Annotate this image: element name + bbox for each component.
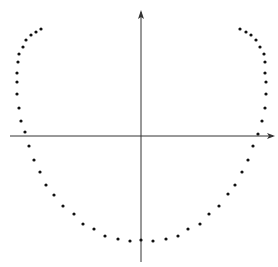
data-point: [81, 222, 84, 225]
data-point: [264, 80, 267, 83]
data-point: [15, 71, 18, 74]
data-point: [176, 234, 179, 237]
data-point: [256, 132, 259, 135]
data-point: [72, 212, 75, 215]
data-point: [15, 80, 18, 83]
data-point: [21, 45, 24, 48]
data-point: [17, 52, 20, 55]
data-point: [128, 239, 131, 242]
data-point: [164, 237, 167, 240]
data-point: [262, 52, 265, 55]
data-point: [263, 71, 266, 74]
data-point: [263, 106, 266, 109]
axes: [10, 10, 275, 262]
data-point: [207, 212, 210, 215]
data-point: [254, 38, 257, 41]
data-point: [244, 30, 247, 33]
data-point: [263, 60, 266, 63]
data-point: [92, 227, 95, 230]
data-point: [240, 170, 243, 173]
data-point: [17, 106, 20, 109]
data-point: [139, 238, 142, 241]
data-point: [260, 119, 263, 122]
data-point: [24, 38, 27, 41]
data-point: [39, 27, 42, 30]
data-point: [233, 183, 236, 186]
data-point: [251, 144, 254, 147]
data-point: [16, 60, 19, 63]
data-point: [151, 239, 154, 242]
data-point: [38, 170, 41, 173]
data-point: [238, 27, 241, 30]
data-point: [32, 158, 35, 161]
data-point: [226, 192, 229, 195]
data-point: [27, 144, 30, 147]
data-point: [44, 183, 47, 186]
data-point: [249, 33, 252, 36]
data-point: [103, 234, 106, 237]
data-point: [61, 204, 64, 207]
data-point: [198, 222, 201, 225]
data-point: [116, 237, 119, 240]
data-point: [186, 227, 189, 230]
data-point: [34, 30, 37, 33]
data-point: [52, 193, 55, 196]
data-point: [29, 33, 32, 36]
scatter-plot: [0, 0, 278, 267]
data-point: [15, 92, 18, 95]
data-point: [264, 92, 267, 95]
data-point: [19, 119, 22, 122]
data-point: [23, 130, 26, 133]
data-point: [217, 204, 220, 207]
data-point: [258, 45, 261, 48]
data-point: [246, 158, 249, 161]
